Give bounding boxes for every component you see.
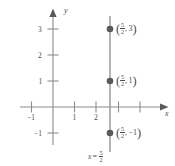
label-y-value: 3: [127, 25, 133, 33]
fraction-denominator: 2: [120, 80, 124, 87]
x-tick-label-1: 1: [73, 114, 77, 122]
fraction-five-halves: 5 2: [120, 74, 124, 88]
fraction-denominator: 2: [99, 156, 103, 163]
x-tick-label-neg1: −1: [27, 114, 35, 122]
point-label-bottom: ( 5 2 , −1 ): [116, 126, 141, 140]
y-tick-label-2: 2: [38, 52, 42, 60]
data-point-bottom: [107, 130, 114, 137]
data-point-middle: [107, 78, 114, 85]
y-axis-arrow-icon: [49, 9, 56, 18]
y-tick-label-1: 1: [39, 78, 43, 86]
point-label-middle: ( 5 2 , 1 ): [116, 74, 137, 88]
graph-canvas: [0, 0, 175, 166]
fraction-five-halves: 5 2: [120, 22, 124, 36]
line-equation-label: x = 5 2: [88, 150, 103, 164]
x-axis-label: x: [165, 110, 169, 118]
coordinate-plane-figure: y x −1 1 2 3 2 1 −1 ( 5 2 , 3 ) ( 5 2 , …: [0, 0, 175, 166]
fraction-denominator: 2: [120, 132, 124, 139]
label-y-value: 1: [127, 77, 133, 85]
fraction-five-halves: 5 2: [120, 126, 124, 140]
y-tick-label-neg1: −1: [34, 130, 42, 138]
point-label-top: ( 5 2 , 3 ): [116, 22, 137, 36]
data-point-top: [107, 26, 114, 33]
fraction-denominator: 2: [120, 28, 124, 35]
fraction-five-halves: 5 2: [99, 150, 103, 164]
equation-equals-sign: =: [91, 153, 98, 161]
x-tick-label-2: 2: [94, 114, 98, 122]
y-tick-label-3: 3: [38, 26, 42, 34]
y-axis-label: y: [64, 7, 68, 15]
label-y-value: −1: [127, 129, 137, 137]
